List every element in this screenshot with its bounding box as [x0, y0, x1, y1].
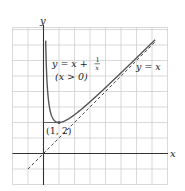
graph-figure: x y y = x + 1 x (x > 0) y = x (1, 2): [0, 0, 185, 191]
curve-label-fraction-denominator: x: [95, 64, 99, 72]
minimum-point-label: (1, 2): [46, 125, 72, 136]
curve-label: y = x +: [51, 58, 88, 69]
y-axis-label: y: [39, 15, 46, 26]
curve-domain-label: (x > 0): [55, 71, 88, 82]
minimum-point: [57, 121, 60, 124]
x-axis-label: x: [170, 148, 176, 159]
curve-label-fraction-numerator: 1: [96, 56, 100, 64]
asymptote-label: y = x: [135, 61, 161, 72]
